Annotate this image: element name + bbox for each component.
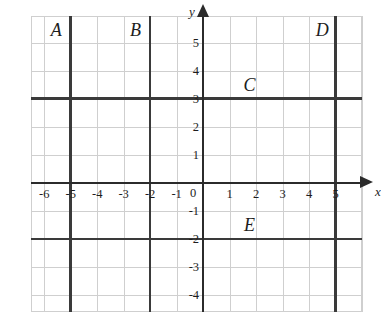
x-tick-label: 1 [226, 188, 232, 201]
y-tick-label: 3 [193, 93, 199, 106]
y-axis-arrow [197, 4, 209, 17]
x-axis-arrow [360, 176, 373, 188]
y-axis [202, 16, 204, 312]
plot-area: -6-5-4-3-2-11234554321-1-2-3-40ABCDE [31, 16, 362, 312]
grid-frame-edge [361, 16, 362, 312]
y-tick-label: -4 [189, 289, 199, 302]
gridline-vertical [362, 16, 363, 312]
line-label-e: E [244, 216, 255, 234]
line-label-c: C [243, 76, 255, 94]
x-tick-label: -2 [145, 188, 155, 201]
y-tick-label: 1 [193, 149, 199, 162]
grid-frame-edge [31, 311, 362, 312]
x-tick-label: 4 [306, 188, 312, 201]
y-tick-label: 2 [193, 121, 199, 134]
y-tick-label: -1 [189, 205, 199, 218]
bold-line-d [334, 16, 337, 312]
x-tick-label: -4 [92, 188, 102, 201]
line-label-b: B [130, 21, 141, 39]
y-tick-label: 4 [193, 64, 199, 77]
x-tick-label: -6 [39, 188, 49, 201]
bold-line-a [69, 16, 72, 312]
x-tick-label: -1 [171, 188, 181, 201]
grid-frame-edge [31, 16, 32, 312]
y-axis-name: y [189, 5, 195, 18]
x-tick-label: -5 [66, 188, 76, 201]
line-label-a: A [51, 21, 62, 39]
bold-line-b [149, 16, 152, 312]
line-label-d: D [316, 21, 329, 39]
y-tick-label: -2 [189, 233, 199, 246]
x-tick-label: 5 [332, 188, 338, 201]
y-tick-label: -3 [189, 261, 199, 274]
x-axis [31, 182, 362, 184]
x-tick-label: -3 [118, 188, 128, 201]
x-tick-label: 2 [253, 188, 259, 201]
y-tick-label: 5 [193, 36, 199, 49]
x-tick-label: 3 [279, 188, 285, 201]
x-axis-name: x [375, 185, 381, 198]
origin-label: 0 [190, 187, 196, 200]
